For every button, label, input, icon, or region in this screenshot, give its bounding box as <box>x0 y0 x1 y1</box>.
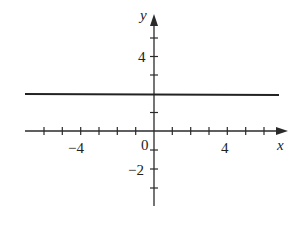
y-tick-label-4: 4 <box>138 49 146 65</box>
x-tick-label-4: 4 <box>221 140 229 156</box>
y-tick-label-neg2: −2 <box>128 162 144 178</box>
x-tick-label-neg4: −4 <box>68 140 84 156</box>
chart-container: y x 4 −2 −4 0 4 <box>0 0 303 234</box>
y-axis-arrow-icon <box>150 14 158 26</box>
x-axis-arrow-icon <box>276 127 288 135</box>
x-axis-label: x <box>276 137 284 153</box>
line-y-equals-2 <box>25 94 279 95</box>
origin-label: 0 <box>141 137 149 153</box>
y-axis-label: y <box>138 7 147 23</box>
coordinate-plane: y x 4 −2 −4 0 4 <box>0 0 303 234</box>
